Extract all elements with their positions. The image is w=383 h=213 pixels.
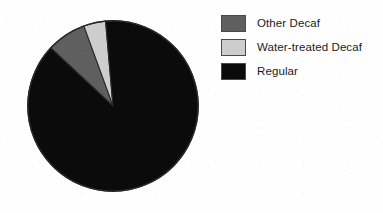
- legend-swatch-regular: [221, 63, 246, 80]
- pie-chart: [27, 20, 199, 192]
- legend-label-other-decaf: Other Decaf: [257, 17, 320, 30]
- legend-swatch-other-decaf: [221, 15, 246, 32]
- chart-legend: Other Decaf Water-treated Decaf Regular: [221, 14, 381, 86]
- legend-label-regular: Regular: [257, 65, 298, 78]
- pie-chart-svg: [27, 20, 199, 192]
- chart-page: Other Decaf Water-treated Decaf Regular: [0, 0, 383, 213]
- legend-swatch-water-treated-decaf: [221, 39, 246, 56]
- legend-item-other-decaf[interactable]: Other Decaf: [221, 14, 381, 32]
- legend-label-water-treated-decaf: Water-treated Decaf: [257, 41, 362, 54]
- legend-item-regular[interactable]: Regular: [221, 62, 381, 80]
- pie-slice-group: [28, 21, 198, 191]
- legend-item-water-treated-decaf[interactable]: Water-treated Decaf: [221, 38, 381, 56]
